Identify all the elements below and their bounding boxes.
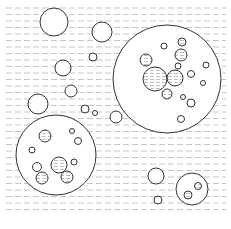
- open-circle: [92, 22, 112, 42]
- open-circle: [29, 147, 35, 153]
- hatched-circle: [51, 157, 67, 173]
- open-circle: [70, 129, 75, 134]
- open-circle: [93, 111, 98, 116]
- open-circle: [33, 163, 42, 172]
- open-circle: [148, 168, 164, 184]
- open-circle: [188, 71, 195, 78]
- open-circle: [181, 95, 186, 100]
- diagram-canvas: [0, 0, 231, 229]
- open-circle: [65, 85, 77, 97]
- open-circle: [55, 60, 71, 76]
- hatched-circle: [167, 70, 183, 86]
- open-circle: [178, 116, 185, 123]
- hatched-circle: [143, 67, 167, 91]
- open-circle: [89, 53, 97, 61]
- open-circle: [75, 138, 82, 145]
- hatched-circle: [175, 49, 187, 61]
- large-circle-left-cluster: [16, 115, 96, 195]
- hatched-circle: [39, 130, 51, 142]
- hatched-circle: [184, 191, 192, 199]
- open-circle: [110, 111, 122, 123]
- hatched-circle: [162, 89, 172, 99]
- open-circle: [154, 196, 162, 204]
- large-circle-bottom-right-cluster: [176, 173, 208, 205]
- hatched-circle: [61, 171, 73, 183]
- open-circle: [28, 94, 48, 114]
- open-circle: [201, 81, 206, 86]
- open-circle: [175, 63, 181, 69]
- hatched-circle: [178, 38, 186, 46]
- open-circle: [187, 99, 195, 107]
- open-circle: [203, 62, 209, 68]
- open-circle: [161, 43, 167, 49]
- hatched-circle: [140, 54, 152, 66]
- open-circle: [40, 8, 68, 36]
- hatched-circle: [195, 183, 202, 190]
- hatched-circle: [36, 172, 48, 184]
- open-circle: [71, 159, 77, 165]
- circles-diagram: [0, 0, 231, 229]
- open-circle: [81, 105, 89, 113]
